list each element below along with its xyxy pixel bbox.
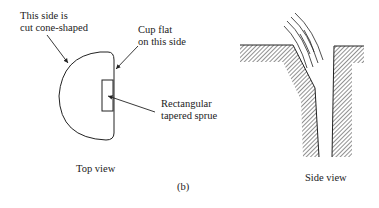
cup-outline [59,52,114,140]
cone-side-annotation-line-1: This side is [20,10,88,22]
left-mold-wall [240,45,319,157]
figure-label: (b) [177,181,189,193]
side-view [240,13,364,157]
flat-side-arrow [116,46,138,69]
sprue-annotation-line-1: Rectangular [161,98,217,110]
top-view [47,35,155,140]
sprue-rectangle [102,80,113,111]
sprue-annotation: Rectangular tapered sprue [161,98,217,122]
cone-side-arrow [47,35,68,63]
side-view-caption: Side view [305,172,347,184]
cone-side-annotation: This side is cut cone-shaped [20,10,88,34]
sprue-annotation-line-2: tapered sprue [161,110,217,122]
top-view-caption: Top view [76,163,115,175]
flat-side-annotation-line-2: on this side [138,36,186,48]
sprue-arrow [108,96,155,112]
cone-side-annotation-line-2: cut cone-shaped [20,22,88,34]
right-mold-wall [332,46,364,157]
flat-side-annotation: Cup flat on this side [138,24,186,48]
flat-side-annotation-line-1: Cup flat [138,24,186,36]
